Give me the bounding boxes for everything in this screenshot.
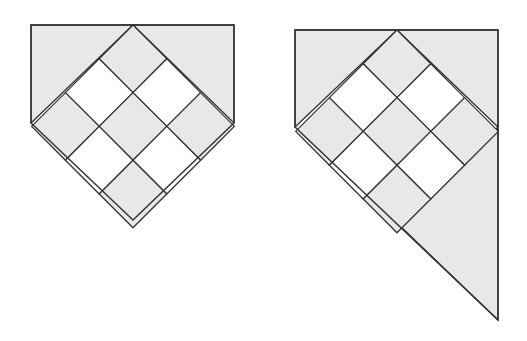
left-figure (31, 25, 234, 228)
quilt-diagram (0, 0, 527, 341)
diagram-canvas (0, 0, 527, 341)
right-figure (295, 30, 498, 320)
